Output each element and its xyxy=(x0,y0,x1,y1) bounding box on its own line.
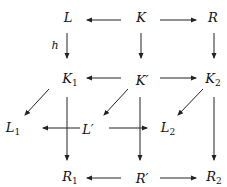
node-R: R xyxy=(208,11,218,24)
node-label: L xyxy=(64,10,73,25)
node-subscript: 1 xyxy=(14,127,20,137)
node-label: R xyxy=(206,169,216,184)
node-label: L xyxy=(6,120,15,135)
node-label: L′ xyxy=(82,122,94,137)
edge-label-h: h xyxy=(51,39,58,52)
node-L1: L1 xyxy=(6,121,20,137)
node-Lp: L′ xyxy=(82,123,94,136)
node-label: K′ xyxy=(136,73,149,88)
node-K2: K2 xyxy=(205,72,220,88)
node-Kp: K′ xyxy=(136,74,149,87)
node-subscript: 1 xyxy=(72,176,78,186)
node-label: K xyxy=(62,71,72,86)
node-subscript: 2 xyxy=(216,176,222,186)
node-Rp: R′ xyxy=(136,172,149,185)
arrow-K2-to-L2 xyxy=(178,89,203,115)
node-label: R xyxy=(208,10,218,25)
node-R2: R2 xyxy=(206,170,222,186)
node-label: L xyxy=(161,120,170,135)
node-L: L xyxy=(64,11,73,24)
node-R1: R1 xyxy=(62,170,78,186)
node-label: R′ xyxy=(136,171,149,186)
node-label: K xyxy=(136,10,146,25)
arrow-Kp-to-Lp xyxy=(104,89,128,115)
node-subscript: 2 xyxy=(169,127,175,137)
node-subscript: 1 xyxy=(72,78,78,88)
diagram-arrows xyxy=(0,0,227,187)
node-subscript: 2 xyxy=(215,78,221,88)
node-K1: K1 xyxy=(62,72,77,88)
node-label: R xyxy=(62,169,72,184)
node-K: K xyxy=(136,11,146,24)
node-L2: L2 xyxy=(161,121,175,137)
node-label: K xyxy=(205,71,215,86)
commutative-diagram: LKRK1K′K2L1L′L2R1R′R2h xyxy=(0,0,227,187)
arrow-K1-to-L1 xyxy=(25,89,49,115)
